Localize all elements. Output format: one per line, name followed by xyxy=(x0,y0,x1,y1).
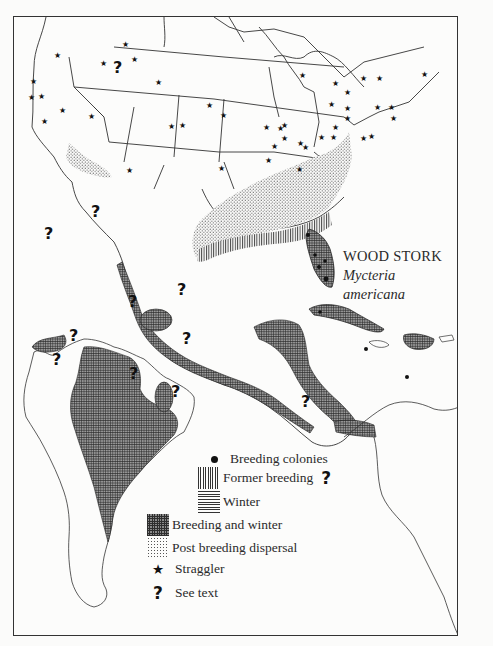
svg-text:?: ? xyxy=(301,392,310,411)
svg-text:★: ★ xyxy=(41,117,48,126)
svg-text:★: ★ xyxy=(296,165,303,174)
svg-text:★: ★ xyxy=(277,124,284,133)
svg-text:★: ★ xyxy=(265,156,272,165)
svg-text:★: ★ xyxy=(344,88,351,97)
colombia-venezuela-outline xyxy=(344,402,458,636)
svg-text:★: ★ xyxy=(376,74,383,83)
svg-text:★: ★ xyxy=(38,92,45,101)
question-mark-icon: ? xyxy=(321,468,331,488)
svg-text:★: ★ xyxy=(155,78,162,87)
svg-text:★: ★ xyxy=(122,40,129,49)
legend-breeding-and-winter: Breeding and winter xyxy=(147,514,282,536)
legend-label: See text xyxy=(175,585,218,601)
vertical-hatch-swatch-icon xyxy=(198,467,220,489)
svg-text:★: ★ xyxy=(302,143,309,152)
common-name: WOOD STORK xyxy=(343,247,457,266)
svg-text:★: ★ xyxy=(54,51,61,60)
svg-text:★: ★ xyxy=(179,121,186,130)
question-mark-icon: ? xyxy=(151,583,165,603)
legend-former-breeding: Former breeding ? xyxy=(198,467,331,489)
hispaniola-range xyxy=(403,334,434,350)
legend-label: Former breeding xyxy=(223,470,313,486)
mexico-interior-range xyxy=(140,309,172,331)
species-title: WOOD STORK Mycteria americana xyxy=(343,247,457,304)
svg-text:★: ★ xyxy=(318,133,325,142)
svg-text:★: ★ xyxy=(220,111,227,120)
south-america-range xyxy=(70,347,177,542)
svg-text:★: ★ xyxy=(28,93,35,102)
svg-text:?: ? xyxy=(113,58,122,77)
star-icon: ★ xyxy=(151,561,165,577)
svg-text:★: ★ xyxy=(299,71,306,80)
svg-text:?: ? xyxy=(52,350,61,369)
map-frame: ★★★★ ★★★★ ★★★★ ★★★★ ★★★★ ★★★★ ★★★★ ★★★★ … xyxy=(13,16,458,636)
svg-text:?: ? xyxy=(44,224,53,243)
svg-text:?: ? xyxy=(128,292,137,311)
svg-text:★: ★ xyxy=(344,114,351,123)
straggler-markers: ★★★★ ★★★★ ★★★★ ★★★★ ★★★★ ★★★★ ★★★★ ★★★★ … xyxy=(28,40,428,175)
filled-circle-icon xyxy=(211,456,218,463)
svg-text:?: ? xyxy=(129,364,138,383)
cross-hatch-swatch-icon xyxy=(147,514,169,536)
florida-range xyxy=(306,229,334,287)
legend-see-text: ? See text xyxy=(151,583,218,603)
svg-text:★: ★ xyxy=(100,59,107,68)
legend-breeding-colonies: Breeding colonies xyxy=(211,451,328,467)
svg-text:★: ★ xyxy=(30,77,37,86)
svg-text:★: ★ xyxy=(263,123,270,132)
svg-text:★: ★ xyxy=(126,166,133,175)
dispersal-region-southwest xyxy=(66,143,112,178)
svg-text:?: ? xyxy=(69,326,78,345)
legend-winter: Winter xyxy=(198,491,260,513)
svg-text:★: ★ xyxy=(421,70,428,79)
scientific-name: Mycteria americana xyxy=(343,266,457,304)
svg-text:?: ? xyxy=(177,280,186,299)
svg-text:★: ★ xyxy=(332,79,339,88)
svg-text:★: ★ xyxy=(206,101,213,110)
svg-text:★: ★ xyxy=(344,104,351,113)
horizontal-hatch-swatch-icon xyxy=(198,491,220,513)
legend-postbreeding-dispersal: Post breeding dispersal xyxy=(147,537,297,559)
cuba-range xyxy=(309,305,384,333)
svg-text:?: ? xyxy=(171,382,180,401)
svg-text:★: ★ xyxy=(271,142,278,151)
svg-text:?: ? xyxy=(91,202,100,221)
svg-text:★: ★ xyxy=(332,123,339,132)
legend-straggler: ★ Straggler xyxy=(151,561,225,577)
legend-label: Post breeding dispersal xyxy=(172,540,297,556)
legend-label: Winter xyxy=(223,494,260,510)
yucatan-range xyxy=(254,320,359,433)
svg-text:★: ★ xyxy=(168,122,175,131)
svg-text:?: ? xyxy=(182,329,191,348)
svg-text:★: ★ xyxy=(59,106,66,115)
svg-text:★: ★ xyxy=(388,103,395,112)
svg-text:★: ★ xyxy=(281,134,288,143)
svg-text:★: ★ xyxy=(390,114,397,123)
svg-text:★: ★ xyxy=(374,103,381,112)
svg-text:★: ★ xyxy=(131,55,138,64)
svg-text:★: ★ xyxy=(88,112,95,121)
svg-text:★: ★ xyxy=(330,133,337,142)
svg-text:★: ★ xyxy=(328,100,335,109)
svg-text:★: ★ xyxy=(218,164,225,173)
legend-label: Breeding and winter xyxy=(172,517,282,533)
svg-text:★: ★ xyxy=(360,134,367,143)
legend-label: Breeding colonies xyxy=(230,451,328,467)
svg-text:★: ★ xyxy=(360,74,367,83)
svg-text:★: ★ xyxy=(368,132,375,141)
legend-label: Straggler xyxy=(175,561,225,577)
stipple-swatch-icon xyxy=(147,537,169,559)
